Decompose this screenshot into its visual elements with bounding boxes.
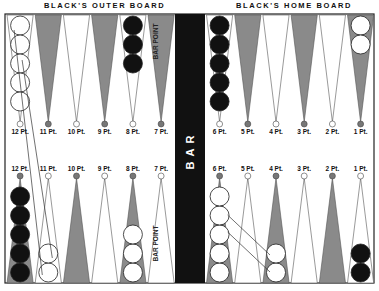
- top-point-label: 10 Pt.: [63, 128, 91, 135]
- black-checker: [210, 35, 229, 54]
- point-tip-marker: [74, 173, 80, 179]
- top-point-label: 4 Pt.: [262, 128, 290, 135]
- black-checker: [11, 225, 30, 244]
- black-checker: [11, 206, 30, 225]
- point-tip-marker: [301, 173, 307, 179]
- top-point-label: 3 Pt.: [290, 128, 318, 135]
- white-checker: [123, 244, 142, 263]
- top-point-label: 2 Pt.: [318, 128, 346, 135]
- bottom-point-label: 1 Pt.: [347, 165, 375, 172]
- black-checker: [351, 244, 370, 263]
- bottom-point-label: 11 Pt.: [34, 165, 62, 172]
- top-point-label: 7 Pt.: [147, 128, 175, 135]
- point-tip-marker: [17, 173, 23, 179]
- point-tip-marker: [102, 121, 108, 127]
- point-tip-marker: [130, 121, 136, 127]
- white-checker: [267, 244, 286, 263]
- point-tip-marker: [358, 121, 364, 127]
- black-checker: [210, 92, 229, 111]
- white-checker: [39, 244, 58, 263]
- point-tip-marker: [217, 173, 223, 179]
- point-tip-marker: [74, 121, 80, 127]
- point-tip-marker: [329, 121, 335, 127]
- white-checker: [39, 263, 58, 282]
- black-checker: [11, 187, 30, 206]
- point-tip-marker: [301, 121, 307, 127]
- black-checker: [11, 263, 30, 282]
- white-checker: [267, 263, 286, 282]
- black-checker: [123, 16, 142, 35]
- bar-label: BAR: [175, 130, 205, 170]
- white-checker: [11, 35, 30, 54]
- point-tip-marker: [158, 173, 164, 179]
- white-checker: [210, 187, 229, 206]
- point-tip-marker: [273, 121, 279, 127]
- top-point-label: 5 Pt.: [234, 128, 262, 135]
- point-tip-marker: [245, 121, 251, 127]
- point-tip-marker: [217, 121, 223, 127]
- bottom-point-label: 2 Pt.: [318, 165, 346, 172]
- white-checker: [210, 225, 229, 244]
- black-checker: [210, 54, 229, 73]
- white-checker: [123, 225, 142, 244]
- bottom-point-label: 3 Pt.: [290, 165, 318, 172]
- point-tip-marker: [17, 121, 23, 127]
- black-checker: [123, 35, 142, 54]
- point-tip-marker: [45, 173, 51, 179]
- top-point-label: 6 Pt.: [206, 128, 234, 135]
- white-checker: [351, 35, 370, 54]
- bar-text: BAR: [184, 131, 196, 170]
- white-checker: [11, 54, 30, 73]
- white-checker: [351, 16, 370, 35]
- point-tip-marker: [158, 121, 164, 127]
- point-tip-marker: [45, 121, 51, 127]
- point-tip-marker: [273, 173, 279, 179]
- top-point-label: 11 Pt.: [34, 128, 62, 135]
- black-checker: [210, 73, 229, 92]
- bottom-point-label: 6 Pt.: [206, 165, 234, 172]
- bottom-point-label: 4 Pt.: [262, 165, 290, 172]
- point-tip-marker: [329, 173, 335, 179]
- bottom-point-label: 7 Pt.: [147, 165, 175, 172]
- bar-point-label-top: BAR POINT: [152, 24, 159, 60]
- point-tip-marker: [358, 173, 364, 179]
- white-checker: [11, 92, 30, 111]
- point-tip-marker: [245, 173, 251, 179]
- point-tip-marker: [102, 173, 108, 179]
- black-checker: [123, 54, 142, 73]
- top-point-label: 8 Pt.: [119, 128, 147, 135]
- bottom-point-label: 10 Pt.: [63, 165, 91, 172]
- top-point-label: 1 Pt.: [347, 128, 375, 135]
- bottom-point-label: 12 Pt.: [6, 165, 34, 172]
- black-checker: [210, 16, 229, 35]
- point-tip-marker: [130, 173, 136, 179]
- bottom-point-label: 5 Pt.: [234, 165, 262, 172]
- white-checker: [123, 263, 142, 282]
- white-checker: [210, 244, 229, 263]
- black-checker: [351, 263, 370, 282]
- top-point-label: 12 Pt.: [6, 128, 34, 135]
- white-checker: [210, 206, 229, 225]
- white-checker: [210, 263, 229, 282]
- bottom-point-label: 9 Pt.: [91, 165, 119, 172]
- bottom-point-label: 8 Pt.: [119, 165, 147, 172]
- top-point-label: 9 Pt.: [91, 128, 119, 135]
- white-checker: [11, 16, 30, 35]
- black-checker: [11, 244, 30, 263]
- bar-point-label-bottom: BAR POINT: [152, 226, 159, 262]
